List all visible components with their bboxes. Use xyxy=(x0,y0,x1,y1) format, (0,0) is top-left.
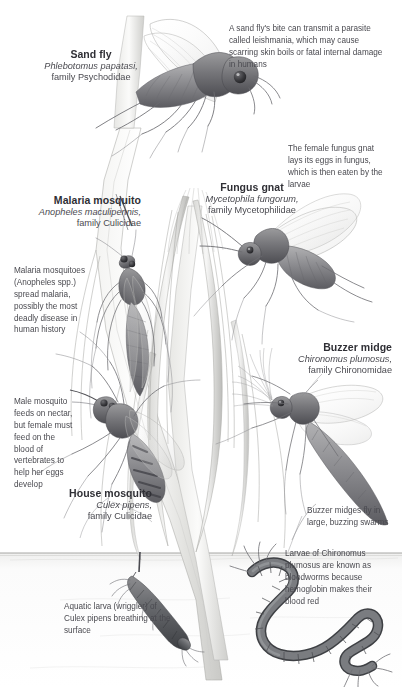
note-malaria-mosquito: Malaria mosquitoes (Anopheles spp.) spre… xyxy=(14,265,100,336)
house-mosquito-family: family Culicidae xyxy=(20,511,152,522)
species-label-house-mosquito: House mosquito Culex pipens, family Culi… xyxy=(20,487,152,522)
house-mosquito-latin-name: Culex pipens, xyxy=(20,500,152,511)
species-label-buzzer-midge: Buzzer midge Chironomus plumosus, family… xyxy=(258,341,392,376)
fungus-gnat-latin-name: Mycetophila fungorum, xyxy=(186,194,318,205)
sand-fly-latin-name: Phlebotomus papatasi, xyxy=(22,61,160,72)
note-wriggler: Aquatic larva (wriggler) of Culex pipens… xyxy=(64,601,180,637)
buzzer-midge-family: family Chironomidae xyxy=(258,365,392,376)
species-label-fungus-gnat: Fungus gnat Mycetophila fungorum, family… xyxy=(186,181,318,216)
fungus-gnat-family: family Mycetophilidae xyxy=(186,205,318,216)
species-label-sand-fly: Sand fly Phlebotomus papatasi, family Ps… xyxy=(22,48,160,83)
fungus-gnat-illustration xyxy=(194,194,372,344)
sand-fly-family: family Psychodidae xyxy=(22,72,160,83)
note-sand-fly: A sand fly's bite can transmit a parasit… xyxy=(229,23,387,71)
malaria-mosquito-family: family Culicidae xyxy=(8,218,141,229)
note-bloodworm: Larvae of Chironomus plumosus are known … xyxy=(285,548,389,607)
note-male-mosquito: Male mosquito feeds on nectar, but femal… xyxy=(14,396,76,491)
buzzer-midge-common-name: Buzzer midge xyxy=(258,341,392,354)
buzzer-midge-latin-name: Chironomus plumosus, xyxy=(258,354,392,365)
note-buzzer-swarm: Buzzer midges fly in large, buzzing swar… xyxy=(307,505,389,529)
house-mosquito-common-name: House mosquito xyxy=(20,487,152,500)
species-label-malaria-mosquito: Malaria mosquito Anopheles maculipennis,… xyxy=(8,194,141,229)
malaria-mosquito-latin-name: Anopheles maculipennis, xyxy=(8,207,141,218)
fungus-gnat-common-name: Fungus gnat xyxy=(186,181,318,194)
illustration-plate: Sand fly Phlebotomus papatasi, family Ps… xyxy=(0,0,402,687)
sand-fly-common-name: Sand fly xyxy=(22,48,160,61)
malaria-mosquito-common-name: Malaria mosquito xyxy=(8,194,141,207)
